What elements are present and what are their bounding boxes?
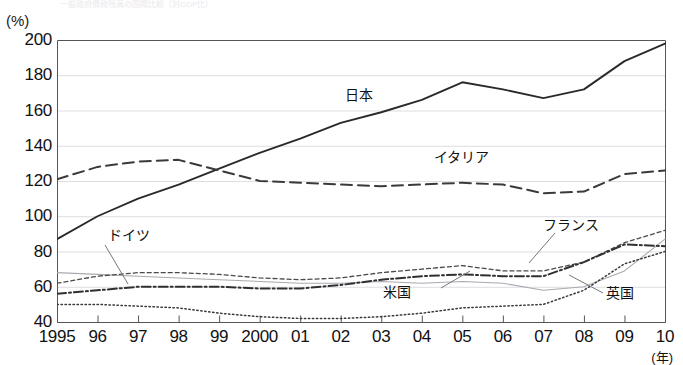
x-axis-tick-labels: 199596979899200001020304050607080910 (0, 327, 683, 351)
x-tick-98: 98 (164, 327, 194, 347)
series-label-france: フランス (543, 218, 599, 233)
y-tick-100: 100 (25, 207, 52, 224)
x-tick-04: 04 (407, 327, 437, 347)
x-tick-03: 03 (366, 327, 396, 347)
y-tick-140: 140 (25, 137, 52, 154)
leader-uk (569, 275, 603, 293)
series-label-japan: 日本 (345, 88, 373, 103)
y-tick-200: 200 (25, 31, 52, 48)
x-tick-96: 96 (83, 327, 113, 347)
y-tick-160: 160 (25, 102, 52, 119)
series-label-uk: 英国 (606, 286, 634, 301)
x-tick-02: 02 (326, 327, 356, 347)
series-label-usa: 米国 (383, 285, 411, 300)
leader-germany (105, 245, 128, 284)
series-line-イタリア (57, 160, 665, 193)
x-tick-06: 06 (488, 327, 518, 347)
x-tick-99: 99 (204, 327, 234, 347)
y-tick-180: 180 (25, 66, 52, 83)
y-tick-60: 60 (34, 278, 52, 295)
chart-svg (57, 40, 667, 324)
x-tick-07: 07 (528, 327, 558, 347)
leader-usa (441, 271, 470, 288)
x-tick-10: 10 (650, 327, 680, 347)
series-line-日本 (57, 44, 665, 240)
leader-france (529, 233, 555, 263)
x-tick-97: 97 (123, 327, 153, 347)
series-label-germany: ドイツ (108, 228, 150, 243)
y-tick-80: 80 (34, 243, 52, 260)
chart-title: 一般政府債務残高の国際比較（対GDP比） (60, 0, 620, 9)
x-tick-2000: 2000 (236, 327, 284, 347)
x-axis-unit-label: (年) (651, 347, 673, 365)
x-tick-1995: 1995 (33, 327, 81, 347)
series-line-英国 (57, 252, 665, 319)
x-tick-05: 05 (447, 327, 477, 347)
series-label-italy: イタリア (434, 150, 489, 165)
y-tick-120: 120 (25, 172, 52, 189)
chart-plot-area (57, 40, 665, 322)
x-tick-09: 09 (609, 327, 639, 347)
x-tick-08: 08 (569, 327, 599, 347)
x-tick-01: 01 (285, 327, 315, 347)
y-axis-tick-labels: 200180160140120100806040 (0, 0, 52, 365)
